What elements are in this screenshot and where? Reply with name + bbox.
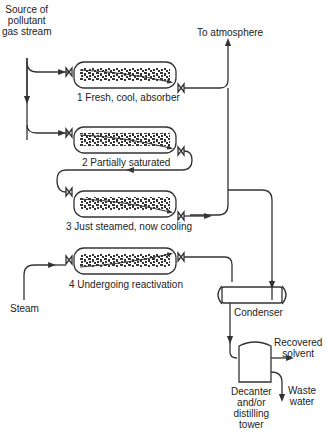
recovered-line-2: solvent: [274, 348, 322, 359]
recovered-line-1: Recovered: [274, 337, 322, 348]
adsorber-2-caption: 2 Partially saturated: [82, 157, 170, 168]
waste-water-label: Waste water: [288, 385, 316, 407]
source-label: Source of pollutant gas stream: [2, 4, 51, 37]
source-line-3: gas stream: [2, 26, 51, 37]
decanter-line-2: and/or: [231, 397, 272, 408]
adsorber-1-caption: 1 Fresh, cool, absorber: [77, 92, 180, 103]
decanter: [239, 342, 271, 382]
recovered-solvent-label: Recovered solvent: [274, 337, 322, 359]
steam-label: Steam: [10, 303, 39, 314]
waste-line-1: Waste: [288, 385, 316, 396]
decanter-line-4: tower: [231, 419, 272, 430]
decanter-line-3: distilling: [231, 408, 272, 419]
process-flow-diagram: [0, 0, 327, 430]
source-line-2: pollutant: [2, 15, 51, 26]
decanter-label: Decanter and/or distilling tower: [231, 386, 272, 430]
condenser-label: Condenser: [234, 307, 283, 318]
condenser: [222, 287, 282, 303]
decanter-line-1: Decanter: [231, 386, 272, 397]
atmosphere-label: To atmosphere: [197, 27, 263, 38]
source-line-1: Source of: [2, 4, 51, 15]
adsorber-3-caption: 3 Just steamed, now cooling: [66, 221, 192, 232]
adsorber-4-caption: 4 Undergoing reactivation: [69, 279, 183, 290]
waste-line-2: water: [288, 396, 316, 407]
